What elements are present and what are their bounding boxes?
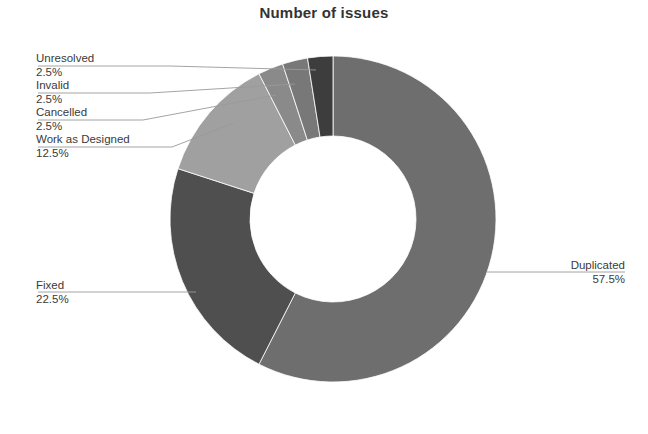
- callout-invalid: Invalid 2.5%: [36, 79, 69, 106]
- callout-cancelled-value: 2.5%: [36, 120, 87, 134]
- chart-page: Number of issues Unresolved 2.5% Invalid…: [0, 0, 648, 434]
- callout-unresolved: Unresolved 2.5%: [36, 52, 94, 79]
- callout-cancelled: Cancelled 2.5%: [36, 106, 87, 133]
- callout-duplicated-label: Duplicated: [571, 259, 625, 273]
- callout-unresolved-value: 2.5%: [36, 66, 94, 80]
- callout-unresolved-label: Unresolved: [36, 52, 94, 66]
- callout-work-as-designed: Work as Designed 12.5%: [36, 133, 130, 160]
- callout-cancelled-label: Cancelled: [36, 106, 87, 120]
- callout-invalid-label: Invalid: [36, 79, 69, 93]
- callout-fixed-label: Fixed: [36, 279, 69, 293]
- donut-slices: [170, 56, 496, 382]
- callout-work-as-designed-value: 12.5%: [36, 147, 130, 161]
- callout-fixed-value: 22.5%: [36, 293, 69, 307]
- callout-work-as-designed-label: Work as Designed: [36, 133, 130, 147]
- callout-duplicated-value: 57.5%: [571, 273, 625, 287]
- donut-chart: [0, 0, 648, 434]
- callout-invalid-value: 2.5%: [36, 93, 69, 107]
- callout-duplicated: Duplicated 57.5%: [571, 259, 625, 286]
- callout-fixed: Fixed 22.5%: [36, 279, 69, 306]
